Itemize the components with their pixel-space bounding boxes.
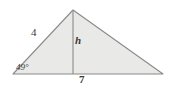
side-length-label-left: 4 [31,27,37,38]
triangle-graphic [0,0,172,90]
triangle-shape [13,10,163,74]
triangle-diagram: 4 h 7 49° [0,0,172,90]
altitude-label: h [75,35,81,46]
angle-measure-label: 49° [16,63,29,72]
base-length-label: 7 [79,74,85,85]
